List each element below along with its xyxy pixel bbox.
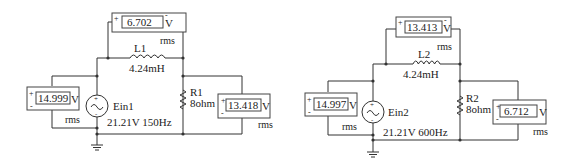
meter-unit: V	[262, 100, 270, 112]
source-name: Ein2	[388, 106, 409, 118]
inductor-icon	[413, 61, 440, 64]
meter-reading: 13.418	[228, 99, 259, 111]
meter-mode: rms	[342, 121, 357, 132]
svg-text:+: +	[221, 96, 226, 105]
svg-text:-: -	[165, 11, 168, 20]
inductor-name: L1	[134, 42, 146, 54]
voltmeter-resistor: + 13.418 V -	[218, 94, 270, 118]
svg-text:+: +	[307, 95, 312, 104]
meter-mode: rms	[160, 35, 175, 46]
voltmeter-source: + 14.997 V -	[305, 93, 357, 117]
ac-source-icon: + -	[362, 101, 384, 124]
meter-reading: 13.413	[407, 21, 438, 33]
ground-icon	[367, 140, 379, 157]
meter-unit: V	[71, 93, 79, 105]
meter-unit: V	[539, 106, 547, 118]
source-spec: 21.21V 600Hz	[383, 126, 448, 138]
meter-reading: 14.997	[316, 98, 347, 110]
svg-text:+: +	[370, 101, 374, 109]
ac-source-icon: + -	[86, 95, 108, 118]
meter-mode: rms	[533, 126, 548, 137]
meter-reading: 14.999	[38, 92, 69, 104]
resistor-value: 8ohm	[466, 103, 492, 115]
source-name: Ein1	[113, 100, 134, 112]
svg-text:+: +	[94, 95, 98, 103]
meter-mode: rms	[437, 41, 452, 52]
voltmeter-source: + 14.999 V -	[27, 87, 79, 111]
circuit-2: L2 4.24mH R2 8ohm + - Ein2 21.21V 600Hz …	[305, 16, 548, 157]
svg-text:-: -	[308, 108, 311, 117]
ground-icon	[91, 134, 103, 150]
svg-text:-: -	[496, 115, 499, 124]
svg-text:-: -	[30, 102, 33, 111]
source-spec: 21.21V 150Hz	[107, 116, 172, 128]
meter-mode: rms	[258, 119, 273, 130]
circuit-1: L1 4.24mH R1 8ohm + - Ein1 21.21V 150Hz …	[27, 11, 273, 150]
inductor-icon	[130, 55, 165, 58]
inductor-value: 4.24mH	[403, 68, 439, 80]
meter-reading: 6.702	[127, 16, 152, 28]
svg-text:+: +	[114, 14, 119, 23]
resistor-value: 8ohm	[190, 97, 216, 109]
inductor-name: L2	[418, 48, 430, 60]
meter-reading: 6.712	[504, 105, 529, 117]
meter-mode: rms	[65, 114, 80, 125]
inductor-value: 4.24mH	[129, 62, 165, 74]
svg-text:-: -	[221, 109, 224, 118]
svg-text:+: +	[398, 18, 403, 27]
svg-text:+: +	[29, 89, 34, 98]
voltmeter-inductor: + 13.413 V -	[396, 16, 451, 37]
voltmeter-resistor: + 6.712 V -	[493, 100, 547, 124]
svg-text:-: -	[444, 16, 447, 25]
voltmeter-inductor: + 6.702 V -	[112, 11, 186, 32]
meter-unit: V	[349, 99, 357, 111]
